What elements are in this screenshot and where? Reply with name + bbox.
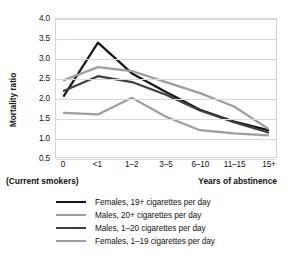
y-axis-tick-label: 2.5 <box>39 74 50 83</box>
gridline <box>56 39 276 40</box>
series-line <box>64 98 268 135</box>
legend-line-swatch <box>56 214 86 216</box>
y-axis-title: Mortality ratio <box>6 52 20 148</box>
legend-item: Females, 19+ cigarettes per day <box>56 196 211 208</box>
legend-item: Males, 1–20 cigarettes per day <box>56 222 205 234</box>
legend-item-label: Females, 1–19 cigarettes per day <box>95 237 215 246</box>
series-line <box>64 76 268 132</box>
x-axis-tick-labels: 0<11–23–56–1011–1515+ <box>55 160 277 174</box>
gridline <box>56 139 276 140</box>
gridline <box>56 79 276 80</box>
gridline <box>56 99 276 100</box>
x-axis-title: Years of abstinence <box>198 176 277 186</box>
line-chart: Mortality ratio 4.03.53.02.52.01.51.00.5… <box>0 6 296 192</box>
y-axis-tick-label: 3.5 <box>39 34 50 43</box>
legend-line-swatch <box>56 227 86 229</box>
x-axis-tick-label: <1 <box>93 160 102 169</box>
gridline <box>56 19 276 20</box>
legend-item: Males, 20+ cigarettes per day <box>56 209 201 221</box>
y-axis-tick-labels: 4.03.53.02.52.01.51.00.5 <box>22 18 52 158</box>
y-axis-tick-label: 1.0 <box>39 134 50 143</box>
x-axis-tick-label: 15+ <box>262 160 276 169</box>
x-axis-labels: (Current smokers) Years of abstinence <box>0 176 296 192</box>
x-axis-tick-label: 3–5 <box>159 160 172 169</box>
legend-item-label: Males, 1–20 cigarettes per day <box>95 224 205 233</box>
legend-item: Females, 1–19 cigarettes per day <box>56 235 215 247</box>
plot-area <box>55 18 277 158</box>
y-axis-tick-label: 0.5 <box>39 154 50 163</box>
legend: Females, 19+ cigarettes per dayMales, 20… <box>0 196 296 254</box>
x-axis-tick-label: 1–2 <box>125 160 138 169</box>
y-axis-tick-label: 3.0 <box>39 54 50 63</box>
gridline <box>56 59 276 60</box>
legend-line-swatch <box>56 240 86 242</box>
y-axis-tick-label: 1.5 <box>39 114 50 123</box>
x-axis-label-current-smokers: (Current smokers) <box>6 176 79 186</box>
y-axis-tick-label: 2.0 <box>39 94 50 103</box>
x-axis-tick-label: 11–15 <box>224 160 246 169</box>
legend-item-label: Females, 19+ cigarettes per day <box>95 198 211 207</box>
x-axis-tick-label: 0 <box>61 160 65 169</box>
gridline <box>56 119 276 120</box>
y-axis-tick-label: 4.0 <box>39 14 50 23</box>
legend-item-label: Males, 20+ cigarettes per day <box>95 211 201 220</box>
x-axis-tick-label: 6–10 <box>191 160 209 169</box>
legend-line-swatch <box>56 201 86 203</box>
figure-mortality-ratio-by-years-of-abstinence: Mortality ratio 4.03.53.02.52.01.51.00.5… <box>0 0 296 260</box>
